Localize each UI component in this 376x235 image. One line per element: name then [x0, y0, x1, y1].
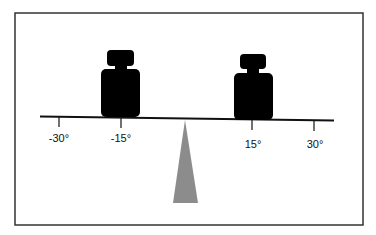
- right-weight-cap: [240, 54, 266, 69]
- right-weight-body: [234, 73, 273, 120]
- balance-diagram: -30° -15° 15° 30°: [0, 0, 376, 235]
- left-weight-body: [101, 69, 140, 117]
- tick-label-neg-15: -15°: [111, 132, 131, 144]
- left-weight-cap: [107, 50, 134, 66]
- tick-label-pos-15: 15°: [245, 138, 262, 150]
- tick-label-neg-30: -30°: [49, 132, 69, 144]
- tick-label-pos-30: 30°: [307, 138, 324, 150]
